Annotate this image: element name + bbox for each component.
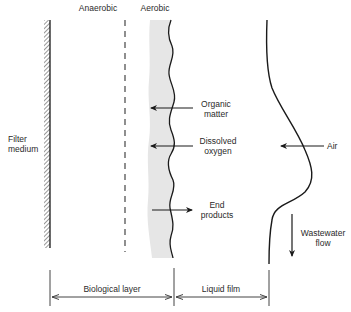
dissolved-oxygen-line2: oxygen bbox=[193, 146, 243, 156]
liquid-film-label: Liquid film bbox=[190, 284, 252, 294]
end-products-label: End products bbox=[194, 200, 240, 220]
filter-medium-wall bbox=[44, 20, 50, 248]
air-label: Air bbox=[327, 141, 337, 151]
aerobic-label: Aerobic bbox=[133, 3, 177, 13]
anaerobic-label: Anaerobic bbox=[68, 3, 128, 13]
biological-layer-label: Biological layer bbox=[72, 284, 152, 294]
filter-medium-label: Filter medium bbox=[8, 134, 38, 154]
wastewater-flow-line2: flow bbox=[297, 238, 349, 248]
filter-medium-line2: medium bbox=[8, 144, 38, 154]
wastewater-flow-label: Wastewater flow bbox=[297, 228, 349, 248]
dissolved-oxygen-label: Dissolved oxygen bbox=[193, 136, 243, 156]
organic-matter-line2: matter bbox=[193, 109, 239, 119]
biofilm-diagram bbox=[0, 0, 351, 312]
filter-medium-line1: Filter bbox=[8, 134, 38, 144]
wastewater-flow-line1: Wastewater bbox=[297, 228, 349, 238]
organic-matter-line1: Organic bbox=[193, 99, 239, 109]
end-products-line2: products bbox=[194, 210, 240, 220]
end-products-line1: End bbox=[194, 200, 240, 210]
organic-matter-label: Organic matter bbox=[193, 99, 239, 119]
dissolved-oxygen-line1: Dissolved bbox=[193, 136, 243, 146]
aerobic-zone bbox=[147, 20, 174, 258]
